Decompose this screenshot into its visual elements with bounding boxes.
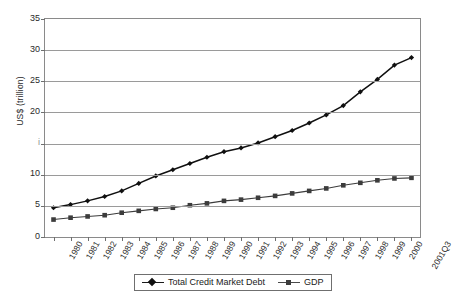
- gridline: [45, 112, 420, 113]
- y-axis-tick-label: 0: [16, 232, 40, 241]
- y-axis-tick-mark: [41, 175, 45, 176]
- data-point-marker: [290, 191, 295, 196]
- data-point-marker: [238, 145, 243, 150]
- data-point-marker: [102, 213, 107, 218]
- data-point-marker: [136, 181, 141, 186]
- x-axis-tick-label: 1989: [220, 240, 237, 261]
- data-point-marker: [409, 176, 414, 181]
- y-axis-tick-mark: [41, 50, 45, 51]
- series-line: [54, 58, 412, 208]
- y-axis-tick-mark: [41, 144, 45, 145]
- x-axis-tick-label: 1997: [357, 240, 374, 261]
- x-axis-tick-label: 1998: [374, 240, 391, 261]
- y-axis-tick-mark: [41, 112, 45, 113]
- legend-item-gdp: GDP: [278, 277, 324, 287]
- data-point-marker: [273, 134, 278, 139]
- y-axis-tick-label: 10: [16, 169, 40, 178]
- legend-label-gdp: GDP: [304, 277, 324, 287]
- x-axis-tick-label: 1988: [203, 240, 220, 261]
- x-axis-tick-label: 1999: [391, 240, 408, 261]
- y-axis-tick-labels: 0510i20253035: [14, 0, 40, 298]
- y-axis-tick-label: 25: [16, 76, 40, 85]
- data-point-marker: [239, 197, 244, 202]
- data-point-marker: [119, 210, 124, 215]
- legend-marker-diamond-icon: [142, 278, 164, 287]
- x-axis-tick-label: 1991: [254, 240, 271, 261]
- gridline: [45, 206, 420, 207]
- y-axis-tick-label: 5: [16, 200, 40, 209]
- data-point-marker: [307, 189, 312, 194]
- data-point-marker: [170, 167, 175, 172]
- data-point-marker: [51, 217, 56, 222]
- data-point-marker: [119, 188, 124, 193]
- x-axis-tick-label: 1994: [306, 240, 323, 261]
- x-axis-tick-label: 1983: [118, 240, 135, 261]
- data-point-marker: [358, 181, 363, 186]
- plot-area: [44, 18, 421, 238]
- data-point-marker: [290, 128, 295, 133]
- x-axis-tick-label: 1986: [169, 240, 186, 261]
- data-point-marker: [273, 194, 278, 199]
- y-axis-tick-label: i: [16, 138, 40, 147]
- data-point-marker: [375, 178, 380, 183]
- x-axis-tick-label: 1995: [323, 240, 340, 261]
- x-axis-tick-label: 1984: [135, 240, 152, 261]
- x-axis-tick-label: 1982: [101, 240, 118, 261]
- chart-legend: Total Credit Market Debt GDP: [134, 274, 332, 291]
- y-axis-tick-mark: [41, 19, 45, 20]
- series-line: [54, 178, 412, 220]
- x-axis-tick-label: 2001Q3: [431, 240, 454, 271]
- y-axis-tick-mark: [41, 81, 45, 82]
- y-axis-tick-mark: [41, 206, 45, 207]
- data-point-marker: [307, 120, 312, 125]
- data-point-marker: [85, 198, 90, 203]
- gridline: [45, 144, 420, 145]
- data-point-marker: [136, 209, 141, 214]
- legend-marker-square-icon: [278, 278, 300, 287]
- x-axis-tick-label: 2000: [408, 240, 425, 261]
- data-point-marker: [221, 149, 226, 154]
- y-axis-tick-label: 30: [16, 45, 40, 54]
- x-axis-tick-label: 1987: [186, 240, 203, 261]
- data-point-marker: [85, 214, 90, 219]
- data-point-marker: [187, 161, 192, 166]
- x-axis-tick-label: 1996: [340, 240, 357, 261]
- data-point-marker: [409, 55, 414, 60]
- data-point-marker: [392, 176, 397, 181]
- legend-label-debt: Total Credit Market Debt: [168, 277, 265, 287]
- x-axis-tick-label: 1981: [84, 240, 101, 261]
- gridline: [45, 175, 420, 176]
- data-point-marker: [68, 215, 73, 220]
- legend-item-debt: Total Credit Market Debt: [142, 277, 265, 287]
- data-point-marker: [153, 207, 158, 212]
- x-axis-tick-label: 1985: [152, 240, 169, 261]
- x-axis-tick-label: 1990: [237, 240, 254, 261]
- x-axis-tick-label: 1992: [272, 240, 289, 261]
- data-point-marker: [204, 155, 209, 160]
- data-point-marker: [256, 195, 261, 200]
- data-point-marker: [341, 183, 346, 188]
- data-point-marker: [222, 199, 227, 204]
- series-layer: [45, 19, 420, 237]
- y-axis-tick-mark: [41, 237, 45, 238]
- data-point-marker: [324, 186, 329, 191]
- x-axis-tick-label: 1993: [289, 240, 306, 261]
- x-axis-tick-label: 1980: [67, 240, 84, 261]
- gridline: [45, 81, 420, 82]
- y-axis-tick-label: 20: [16, 107, 40, 116]
- y-axis-tick-label: 35: [16, 14, 40, 23]
- data-point-marker: [102, 194, 107, 199]
- gridline: [45, 50, 420, 51]
